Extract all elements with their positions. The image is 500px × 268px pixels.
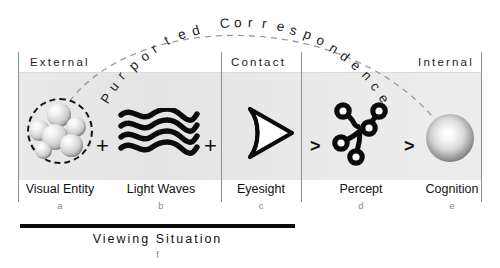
- operator-gt-2: >: [404, 137, 415, 155]
- arc-label-char: C: [219, 16, 231, 32]
- arc-label-char: d: [189, 22, 201, 39]
- stage-sub-percept: d: [325, 200, 397, 211]
- stage-sub-light-waves: b: [115, 200, 207, 211]
- arc-label-char: c: [367, 79, 383, 94]
- sphere-icon: [426, 114, 474, 162]
- arc-label-char: s: [288, 22, 299, 38]
- arc-label-char: d: [338, 48, 353, 64]
- diagram-canvas: External Contact Internal Purported Corr…: [0, 0, 500, 268]
- arc-label-char: o: [233, 15, 241, 30]
- stage-label-visual-entity: Visual Entity: [12, 182, 108, 196]
- stage-sub-visual-entity: a: [12, 200, 108, 211]
- operator-plus-2: +: [204, 135, 217, 157]
- molecule-ball: [60, 134, 83, 157]
- arc-label-char: t: [162, 33, 172, 48]
- arc-label-char: r: [248, 15, 253, 30]
- neural-node-graph-icon: [330, 100, 392, 166]
- stage-label-eyesight: Eyesight: [225, 182, 297, 196]
- arc-label-char: r: [149, 41, 161, 56]
- light-waves-icon: [118, 108, 200, 156]
- viewing-situation-bar: [20, 224, 295, 228]
- arc-label-char: e: [348, 57, 364, 73]
- arc-label-char: e: [175, 27, 188, 44]
- arc-label-char: o: [314, 33, 328, 50]
- viewing-situation-label: Viewing Situation: [20, 232, 295, 246]
- eye-cone-icon: [244, 104, 296, 162]
- stage-label-light-waves: Light Waves: [115, 182, 207, 196]
- stage-sub-cognition: e: [412, 200, 492, 211]
- arc-label-char: P: [98, 90, 115, 106]
- arc-label-char: p: [126, 57, 142, 73]
- arc-label-char: r: [115, 69, 129, 83]
- operator-plus-1: +: [96, 135, 109, 157]
- arc-label-char: p: [301, 27, 314, 44]
- operator-gt-1: >: [310, 137, 321, 155]
- stage-label-cognition: Cognition: [412, 182, 492, 196]
- arc-label-char: o: [137, 48, 152, 64]
- stage-sub-eyesight: c: [225, 200, 297, 211]
- viewing-situation-sub: f: [20, 249, 295, 260]
- arc-label-char: u: [106, 79, 122, 94]
- molecule-ball: [35, 142, 52, 159]
- arc-label-char: n: [326, 40, 340, 57]
- arc-label-char: n: [358, 68, 374, 84]
- molecule-cluster-icon: [27, 98, 93, 164]
- arc-label-char: r: [262, 16, 268, 31]
- stage-label-percept: Percept: [325, 182, 397, 196]
- arc-label-char: e: [275, 18, 286, 34]
